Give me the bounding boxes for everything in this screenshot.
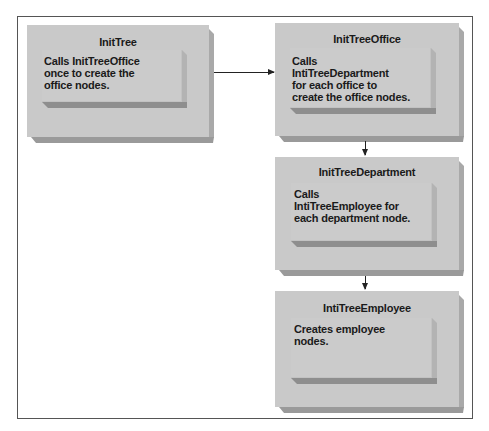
node-title: InitTree [27, 36, 209, 48]
box-side-bottom [279, 407, 464, 413]
inner-side-bottom [291, 241, 437, 247]
box-side-bottom [279, 270, 464, 276]
arrow-department-to-employee [365, 276, 366, 289]
box-side-bottom [279, 136, 464, 142]
node-inti-tree-employee: IntiTreeEmployee Creates employee nodes. [275, 291, 459, 407]
inner-side-bottom [290, 108, 436, 114]
node-description: Calls InitTreeOffice once to create the … [44, 55, 140, 91]
inner-side-right [432, 318, 437, 382]
node-title: InitTreeOffice [275, 33, 459, 45]
inner-side-right [182, 50, 187, 106]
box-side-right [459, 27, 464, 137]
node-init-tree-department: InitTreeDepartment Calls IntiTreeEmploye… [275, 157, 459, 270]
arrow-office-to-department [365, 141, 366, 155]
box-side-right [209, 29, 214, 138]
node-init-tree: InitTree Calls InitTreeOffice once to cr… [27, 25, 209, 137]
node-description: Calls IntiTreeEmployee for each departme… [294, 188, 410, 224]
node-init-tree-office: InitTreeOffice Calls IntiTreeDepartment … [275, 23, 459, 136]
inner-side-bottom [42, 102, 187, 108]
node-title: IntiTreeEmployee [275, 302, 459, 314]
inner-side-right [431, 48, 436, 112]
box-side-right [459, 295, 464, 408]
box-side-right [459, 161, 464, 271]
box-side-bottom [31, 137, 214, 143]
inner-side-right [432, 183, 437, 245]
arrow-inittree-to-office [214, 72, 274, 73]
node-description: Creates employee nodes. [294, 323, 385, 347]
inner-side-bottom [291, 378, 437, 384]
node-title: InitTreeDepartment [275, 166, 459, 178]
node-description: Calls IntiTreeDepartment for each office… [292, 55, 410, 103]
